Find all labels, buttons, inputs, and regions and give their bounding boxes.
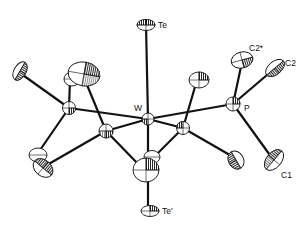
bond-leftp-lower [38,108,69,153]
bond-leftp-methyl [20,73,69,108]
label-c2-star: C2* [249,43,264,53]
atom-left-p [63,102,76,115]
label-c2: C2 [285,58,296,68]
atom-c-right-upper [189,72,209,88]
atom-te [137,20,155,31]
atom-c-center-lower-large [133,158,159,182]
bond-c-left-lower [47,131,106,165]
atom-w [142,113,154,125]
label-te-prime: Te' [162,206,173,216]
atom-p [226,97,240,111]
atom-c-right [177,122,190,135]
bond-p-c1 [233,104,272,158]
label-te: Te [158,20,167,30]
bond-c-right-lower [183,128,235,158]
atom-c-left [99,124,113,138]
ortep-diagram: Te Te' W P C1 C2 C2* [0,0,307,230]
label-p: P [244,103,250,113]
atom-te-prime [141,206,159,217]
bond-w-te [146,25,148,119]
bond-w-p [148,104,233,119]
bond-c-left-upper [85,80,106,131]
label-w: W [134,103,142,113]
label-c1: C1 [281,170,292,180]
atom-c-right-lower [225,148,247,172]
